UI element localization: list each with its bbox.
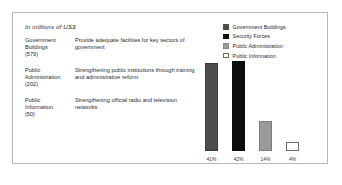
table-row: Government Buildings (579) Provide adequ…	[25, 37, 197, 58]
bar-government-buildings	[205, 63, 218, 151]
units-note: In millions of US$	[25, 23, 76, 30]
category-amount: (50)	[25, 111, 73, 118]
bar-public-administration	[259, 121, 272, 151]
infographic-panel: In millions of US$ Government Buildings …	[12, 12, 328, 164]
bar-security-forces	[232, 61, 245, 151]
table-row: Public Administration (202) Strengthenin…	[25, 67, 197, 88]
bar-chart-plot-area: 41% 42% 14% 4%	[199, 61, 317, 151]
bar-value-label: 41%	[202, 156, 221, 162]
category-line-2: Buildings	[25, 44, 48, 50]
category-line-1: Public	[25, 97, 40, 103]
category-amount: (579)	[25, 51, 73, 58]
chart-legend: Government Buildings Security Forces Pub…	[223, 22, 315, 60]
legend-label: Public Administration	[233, 43, 283, 49]
legend-item-government-buildings: Government Buildings	[223, 22, 315, 32]
legend-label: Security Forces	[233, 33, 270, 39]
bar-value-label: 14%	[256, 156, 275, 162]
category-line-2: Information	[25, 104, 53, 110]
bar-value-label: 42%	[229, 156, 248, 162]
bar-value-label: 4%	[283, 156, 302, 162]
row-description: Strengthening official radio and televis…	[73, 97, 197, 118]
row-category: Public Administration (202)	[25, 67, 73, 88]
table-row: Public Information (50) Strengthening of…	[25, 97, 197, 118]
legend-swatch-icon	[223, 24, 229, 30]
legend-swatch-icon	[223, 34, 229, 40]
bar-chart: 41% 42% 14% 4%	[199, 59, 317, 163]
category-line-2: Administration	[25, 74, 60, 80]
legend-item-security-forces: Security Forces	[223, 32, 315, 42]
category-description-table: Government Buildings (579) Provide adequ…	[25, 37, 197, 126]
legend-item-public-administration: Public Administration	[223, 41, 315, 51]
row-category: Government Buildings (579)	[25, 37, 73, 58]
row-category: Public Information (50)	[25, 97, 73, 118]
category-line-1: Public	[25, 67, 40, 73]
legend-swatch-icon	[223, 53, 229, 59]
legend-label: Government Buildings	[233, 24, 286, 30]
category-line-1: Government	[25, 37, 56, 43]
legend-swatch-icon	[223, 43, 229, 49]
row-description: Strengthening public institutions throug…	[73, 67, 197, 88]
row-description: Provide adequate facilities for key sect…	[73, 37, 197, 58]
category-amount: (202)	[25, 81, 73, 88]
legend-label: Public Information	[233, 53, 276, 59]
bar-public-information	[286, 142, 299, 151]
